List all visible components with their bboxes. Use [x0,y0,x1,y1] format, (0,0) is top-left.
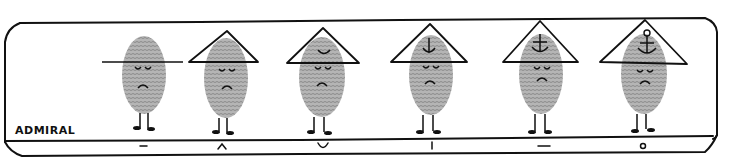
symbol-caret-icon [218,144,226,149]
figure-6 [600,20,687,133]
fingerprint-body [621,34,667,114]
symbol-u-curve-icon [318,143,328,148]
fingerprint-body [409,35,453,115]
figure-1 [102,36,183,131]
cartoon-strip: ADMIRAL [0,0,755,167]
fingerprint-body [519,34,563,114]
legs [637,114,646,130]
caption-label: ADMIRAL [15,124,75,137]
frame [5,18,717,156]
figure-3 [287,28,359,135]
figure-4 [391,24,467,134]
strip-drawing [0,0,755,167]
fingerprint-body [299,37,345,117]
legs [535,114,545,131]
symbol-labels [140,142,646,149]
legs [423,115,433,131]
legs [314,117,324,132]
fingerprint-body [204,38,248,118]
legs [219,118,227,132]
figure-5 [503,21,578,134]
fingerprint-body [122,36,166,114]
figure-2 [189,31,258,135]
symbol-circle-icon [641,144,646,149]
legs [140,113,148,128]
